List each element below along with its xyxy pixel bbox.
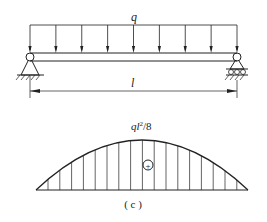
arrowhead-icon xyxy=(210,46,213,53)
figure-caption: ( c ) xyxy=(124,198,142,211)
beam xyxy=(30,53,237,61)
moment-diagram: + xyxy=(36,140,248,190)
beam-diagram: q xyxy=(0,0,267,222)
arrowhead-icon xyxy=(54,46,57,53)
arrowhead-icon xyxy=(184,46,187,53)
load-label: q xyxy=(131,10,137,24)
arrowhead-icon xyxy=(132,46,135,53)
arrowhead-icon xyxy=(106,46,109,53)
max-moment-label: ql2/8 xyxy=(131,120,152,132)
roller-support-icon xyxy=(225,53,248,80)
positive-sign-icon: + xyxy=(145,161,150,171)
arrowhead-icon xyxy=(80,46,83,53)
distributed-load xyxy=(28,25,238,53)
arrowhead-icon xyxy=(158,46,161,53)
moment-label-tail: /8 xyxy=(143,120,152,132)
arrowhead-icon xyxy=(28,46,31,53)
moment-label-base: ql xyxy=(131,120,140,132)
arrowhead-icon xyxy=(235,46,238,53)
pin-support-icon xyxy=(16,53,44,80)
span-label: l xyxy=(131,76,135,90)
